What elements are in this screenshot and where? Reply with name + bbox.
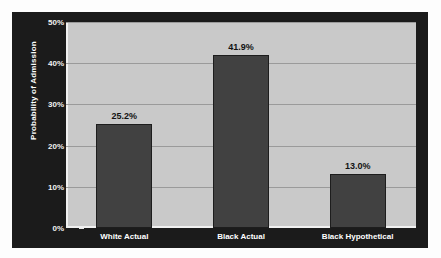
bar-chart: Probability of Admission 0%10%20%30%40%5…: [12, 12, 428, 248]
bar[interactable]: [213, 55, 269, 228]
y-axis-tick-label: 50%: [26, 18, 64, 27]
y-axis-tick-mark: [79, 228, 84, 229]
x-axis-category-labels: White ActualBlack ActualBlack Hypothetic…: [66, 230, 416, 246]
bar[interactable]: [330, 174, 386, 228]
y-axis-tick-labels: 0%10%20%30%40%50%: [26, 22, 64, 228]
bar-group: 41.9%: [183, 22, 300, 228]
x-axis-category-label: Black Hypothetical: [298, 232, 418, 241]
bar-group: 25.2%: [66, 22, 183, 228]
bar-value-label: 25.2%: [89, 111, 159, 121]
bar-value-label: 13.0%: [323, 161, 393, 171]
y-axis-tick-label: 30%: [26, 100, 64, 109]
y-axis-tick-label: 0%: [26, 224, 64, 233]
chart-page: Probability of Admission 0%10%20%30%40%5…: [0, 0, 441, 258]
bar-value-label: 41.9%: [206, 42, 276, 52]
x-axis-category-label: White Actual: [64, 232, 184, 241]
bar[interactable]: [96, 124, 152, 228]
y-axis-tick-label: 20%: [26, 141, 64, 150]
x-axis-category-label: Black Actual: [181, 232, 301, 241]
y-axis-tick-label: 10%: [26, 182, 64, 191]
bar-group: 13.0%: [299, 22, 416, 228]
plot-area: 25.2%41.9%13.0%: [66, 22, 416, 228]
y-axis-tick-label: 40%: [26, 59, 64, 68]
